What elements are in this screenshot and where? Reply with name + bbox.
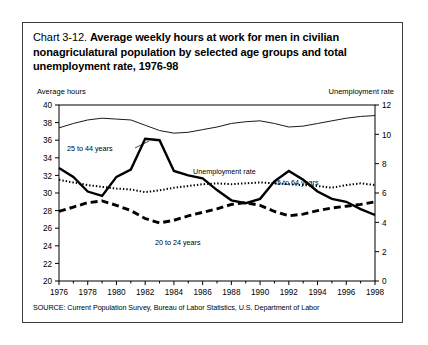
y-axis-right-ticks (375, 105, 379, 281)
x-axis-tick-labels: 1976197819801982198419861988199019921994… (50, 288, 385, 297)
y-tick-label-right: 4 (382, 219, 387, 228)
y-tick-label-left: 38 (43, 119, 53, 128)
x-tick-label: 1998 (366, 288, 385, 297)
x-tick-label: 1982 (136, 288, 155, 297)
y-tick-label-left: 28 (43, 207, 53, 216)
series-line (59, 201, 375, 223)
y-tick-label-right: 12 (382, 101, 392, 110)
x-tick-label: 1992 (280, 288, 299, 297)
x-tick-label: 1990 (251, 288, 270, 297)
x-tick-label: 1976 (50, 288, 69, 297)
x-tick-label: 1994 (308, 288, 327, 297)
y-axis-right-tick-labels: 024681012 (382, 101, 392, 286)
source-note: SOURCE: Current Population Survey, Burea… (33, 303, 319, 312)
chart-figure-frame: Chart 3-12. Average weekly hours at work… (22, 22, 403, 323)
y-tick-label-right: 6 (382, 189, 387, 198)
plot-area: 1976197819801982198419861988199019921994… (23, 23, 404, 324)
plot-frame (59, 105, 375, 281)
x-tick-label: 1996 (337, 288, 356, 297)
y-tick-label-right: 8 (382, 160, 387, 169)
x-tick-label: 1978 (79, 288, 98, 297)
y-tick-label-left: 22 (43, 260, 53, 269)
y-tick-label-left: 40 (43, 101, 53, 110)
y-tick-label-left: 24 (43, 242, 53, 251)
y-axis-left-tick-labels: 2022242628303234363840 (43, 101, 53, 286)
y-tick-label-left: 36 (43, 136, 53, 145)
x-tick-label: 1980 (107, 288, 126, 297)
chart-svg: 1976197819801982198419861988199019921994… (23, 23, 404, 324)
x-axis-ticks (59, 281, 375, 285)
y-axis-left-ticks (55, 105, 59, 281)
series-annotation-unemp: Unemployment rate (193, 167, 256, 176)
x-tick-label: 1984 (165, 288, 184, 297)
y-tick-label-left: 34 (43, 154, 53, 163)
y-tick-label-right: 10 (382, 131, 392, 140)
series-line (59, 116, 375, 134)
series-annotation-25-44: 25 to 44 years (67, 144, 113, 153)
series-annotation-20-24: 20 to 24 years (155, 238, 201, 247)
y-tick-label-right: 2 (382, 248, 387, 257)
y-tick-label-left: 26 (43, 224, 53, 233)
series-annotation-45-64: 45 to 64 years (273, 178, 319, 187)
y-tick-label-left: 32 (43, 172, 53, 181)
y-tick-label-left: 20 (43, 277, 53, 286)
x-tick-label: 1988 (222, 288, 241, 297)
y-tick-label-right: 0 (382, 277, 387, 286)
x-tick-label: 1986 (194, 288, 213, 297)
y-tick-label-left: 30 (43, 189, 53, 198)
